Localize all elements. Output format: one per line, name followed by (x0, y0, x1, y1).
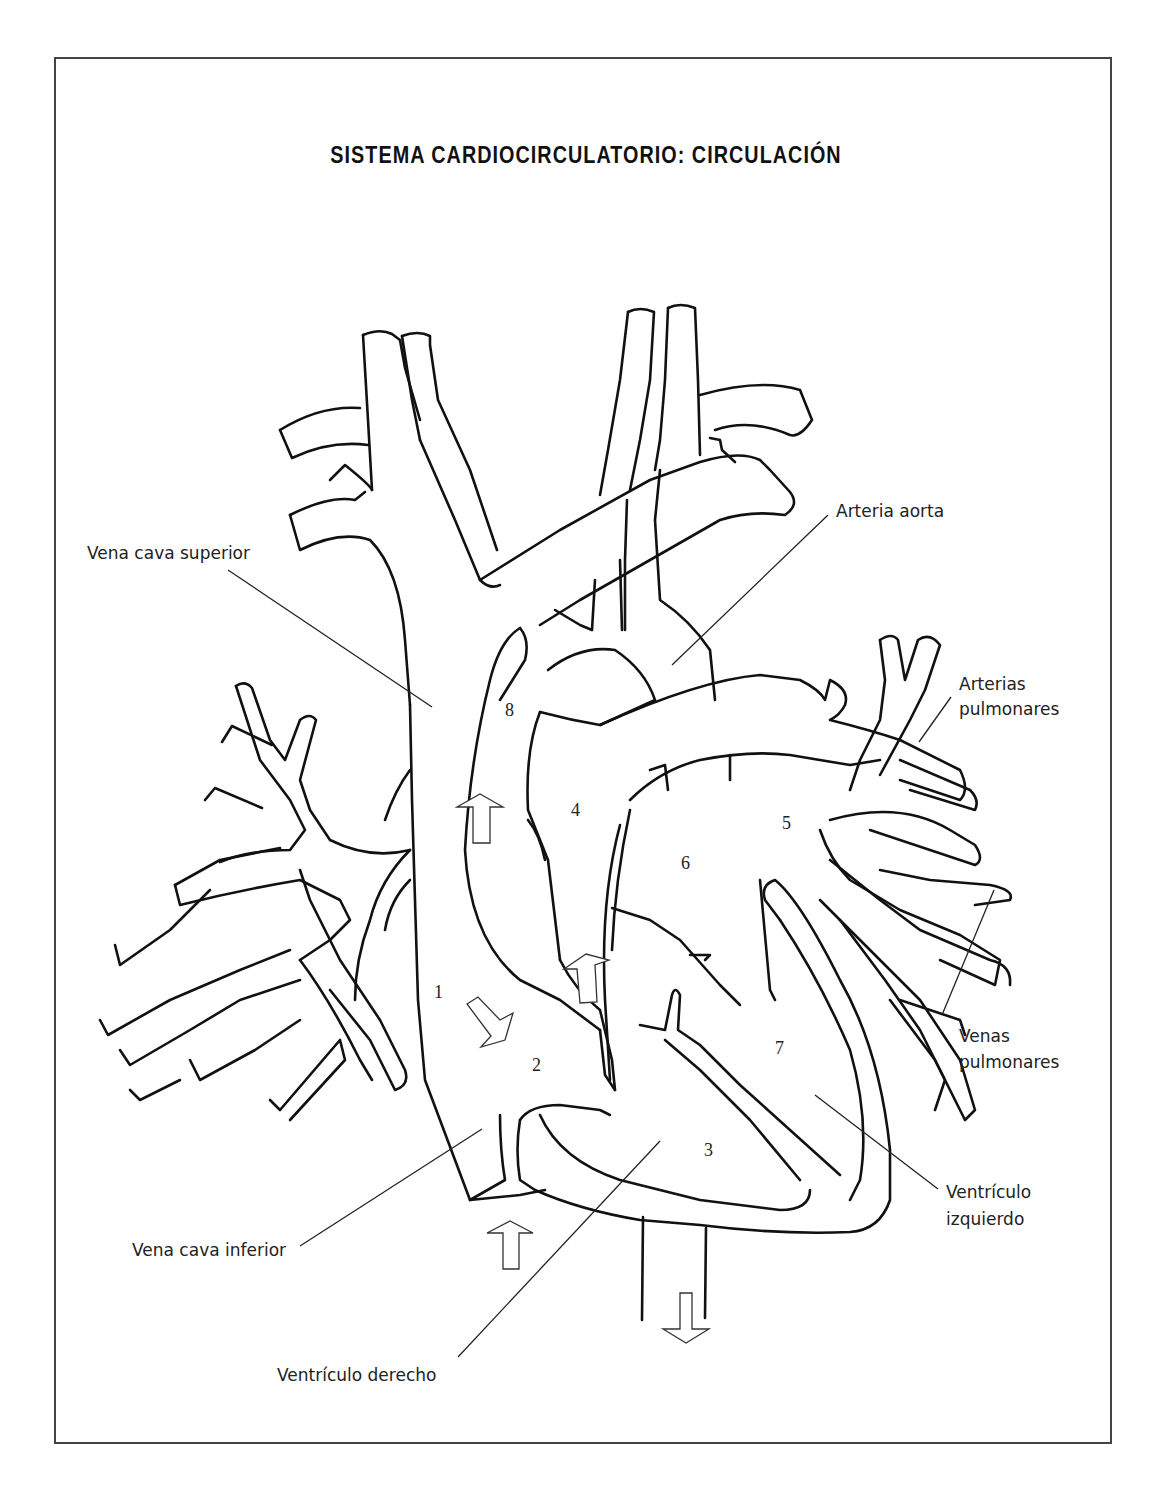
label-ventriculo-izquierdo-line1: Ventrículo (946, 1180, 1031, 1204)
label-arterias-pulmonares-line2: pulmonares (959, 697, 1059, 721)
chamber-number-1: 1 (434, 982, 443, 1003)
superior-vessels-left (280, 331, 497, 705)
label-ventriculo-derecho: Ventrículo derecho (277, 1363, 436, 1387)
aortic-arch-branches (480, 305, 812, 700)
arrow-down-icon (663, 1293, 709, 1343)
leader-ventriculo-derecho (458, 1141, 660, 1357)
chamber-number-2: 2 (532, 1055, 541, 1076)
arrow-up-icon (487, 1221, 533, 1269)
chamber-number-6: 6 (681, 853, 690, 874)
heart-circulation-diagram (0, 0, 1172, 1506)
chamber-number-7: 7 (775, 1038, 784, 1059)
pulmonary-trunk (600, 675, 965, 1080)
label-arterias-pulmonares-line1: Arterias (959, 672, 1026, 696)
label-arteria-aorta: Arteria aorta (836, 499, 944, 523)
flow-arrows (457, 794, 709, 1343)
leader-arterias-pulmonares (919, 697, 951, 742)
chamber-number-8: 8 (505, 700, 514, 721)
arrow-down-right-icon (467, 997, 513, 1047)
leader-vena-cava-superior (228, 570, 432, 707)
arrow-up-icon (457, 794, 503, 843)
chamber-number-4: 4 (571, 800, 580, 821)
chamber-number-5: 5 (782, 813, 791, 834)
label-venas-pulmonares-line2: pulmonares (959, 1050, 1059, 1074)
chamber-number-3: 3 (704, 1140, 713, 1161)
leader-arteria-aorta (672, 515, 828, 665)
descending-aorta (642, 1217, 706, 1320)
leader-vena-cava-inferior (300, 1129, 482, 1246)
left-pulmonary-vessels (100, 683, 410, 1120)
label-venas-pulmonares-line1: Venas (959, 1024, 1010, 1048)
label-vena-cava-superior: Vena cava superior (87, 541, 250, 565)
leader-ventriculo-izquierdo (815, 1095, 938, 1189)
label-ventriculo-izquierdo-line2: izquierdo (946, 1207, 1024, 1231)
label-vena-cava-inferior: Vena cava inferior (132, 1238, 286, 1262)
